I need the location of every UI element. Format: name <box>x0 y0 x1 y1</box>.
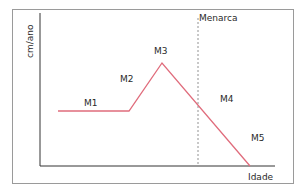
phase-label-m1: M1 <box>84 98 98 108</box>
phase-label-m4: M4 <box>220 94 234 104</box>
phase-label-m3: M3 <box>154 46 168 56</box>
growth-curve <box>58 63 250 166</box>
phase-label-m5: M5 <box>251 133 265 143</box>
y-axis-label: cm/ano <box>25 24 35 58</box>
growth-velocity-diagram: cm/ano Menarca M1 M2 M3 M4 M5 Idade <box>0 0 305 192</box>
x-axis-label: Idade <box>248 172 274 182</box>
phase-label-m2: M2 <box>120 74 134 84</box>
menarca-label: Menarca <box>199 13 238 23</box>
